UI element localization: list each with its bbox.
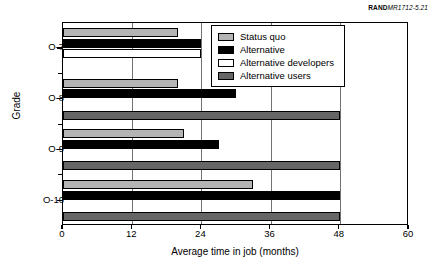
credit-reference: MR1712-5.21 (388, 4, 428, 11)
bar-row (63, 201, 407, 210)
bar-row (63, 212, 407, 221)
bar-o-9-alternative-users (63, 161, 340, 170)
bar-o-8-alternative (63, 89, 236, 98)
bar-o-7-alternative (63, 39, 201, 48)
bar-row (63, 191, 407, 200)
bar-o-10-alternative-users (63, 212, 340, 221)
bar-o-9-alternative (63, 140, 219, 149)
y-tick-mark-o-10 (57, 200, 62, 201)
credit-brand: RAND (368, 4, 387, 11)
bar-o-8-alternative-users (63, 111, 340, 120)
bar-o-10-status-quo (63, 180, 253, 189)
legend-label: Alternative users (240, 71, 311, 81)
y-axis-title: Grade (11, 76, 22, 136)
legend-swatch-icon (218, 59, 234, 67)
bar-row (63, 180, 407, 189)
bar-o-10-alternative (63, 191, 340, 200)
y-tick-mark-o-7 (57, 47, 62, 48)
legend-label: Status quo (240, 32, 285, 42)
x-tick-label-0: 0 (59, 228, 64, 239)
legend-item-alternative-users[interactable]: Alternative users (218, 69, 339, 82)
y-tick-label-o-8: O-8 (4, 92, 64, 103)
x-tick-label-48: 48 (334, 228, 345, 239)
y-minor-tick (58, 73, 62, 74)
bar-group-o-9 (63, 129, 407, 170)
legend-label: Alternative (240, 45, 285, 55)
figure-credit: RANDMR1712-5.21 (368, 5, 428, 12)
bar-o-7-alternative-developers (63, 49, 201, 58)
y-tick-mark-o-9 (57, 149, 62, 150)
x-tick-label-60: 60 (403, 228, 414, 239)
x-axis-title: Average time in job (months) (62, 246, 408, 257)
y-tick-label-o-7: O-7 (4, 41, 64, 52)
legend-label: Alternative developers (240, 58, 334, 68)
bar-row (63, 129, 407, 138)
chart-legend: Status quoAlternativeAlternative develop… (211, 25, 345, 87)
bar-row (63, 89, 407, 98)
y-tick-label-o-9: O-9 (4, 143, 64, 154)
bar-row (63, 161, 407, 170)
legend-swatch-icon (218, 46, 234, 54)
bar-o-8-status-quo (63, 79, 178, 88)
x-tick-label-12: 12 (126, 228, 137, 239)
bar-row (63, 140, 407, 149)
x-tick-label-36: 36 (264, 228, 275, 239)
bar-row (63, 100, 407, 109)
bar-group-o-10 (63, 180, 407, 221)
bar-row (63, 151, 407, 160)
legend-item-status-quo[interactable]: Status quo (218, 30, 339, 43)
legend-swatch-icon (218, 33, 234, 41)
x-tick-label-24: 24 (195, 228, 206, 239)
y-minor-tick (58, 124, 62, 125)
legend-item-alternative-developers[interactable]: Alternative developers (218, 56, 339, 69)
y-tick-mark-o-8 (57, 98, 62, 99)
bar-o-7-status-quo (63, 28, 178, 37)
legend-item-alternative[interactable]: Alternative (218, 43, 339, 56)
y-minor-tick (58, 174, 62, 175)
legend-swatch-icon (218, 72, 234, 80)
bar-row (63, 111, 407, 120)
y-tick-label-o-10: O-10 (4, 194, 64, 205)
bar-o-9-status-quo (63, 129, 184, 138)
